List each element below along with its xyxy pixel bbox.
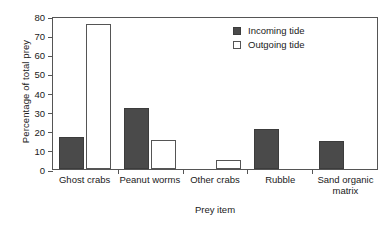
y-tick-label: 0 [25,165,45,176]
bar [216,160,241,169]
x-tick-label: Other crabs [182,174,247,196]
bar [59,137,84,169]
bar [124,108,149,169]
y-tick-label: 70 [25,31,45,42]
bar-group [312,18,377,169]
y-tick-label: 80 [25,12,45,23]
bar [254,129,279,169]
chart-figure: Percentage of total prey 010203040506070… [0,0,391,233]
bar [86,24,111,169]
legend-label: Outgoing tide [248,40,305,50]
x-tick-label: Peanut worms [117,174,182,196]
x-axis-tick-labels: Ghost crabsPeanut wormsOther crabsRubble… [52,174,378,196]
x-axis-title: Prey item [52,204,378,215]
legend-swatch-outgoing [233,41,241,49]
legend-item: Outgoing tide [233,40,305,50]
y-tick-mark [48,171,53,172]
x-tick-label: Sand organic matrix [313,174,378,196]
y-tick-label: 10 [25,146,45,157]
bar-group [118,18,183,169]
x-tick-label: Rubble [248,174,313,196]
bar [319,141,344,169]
y-tick-label: 30 [25,108,45,119]
bar [151,140,176,169]
legend-swatch-incoming [233,27,241,35]
plot-area: 01020304050607080 [52,17,378,170]
y-tick-label: 20 [25,127,45,138]
legend-item: Incoming tide [233,26,305,36]
chart-legend: Incoming tideOutgoing tide [233,26,305,50]
y-tick-label: 60 [25,50,45,61]
legend-label: Incoming tide [248,26,305,36]
bar-group [53,18,118,169]
y-tick-label: 40 [25,89,45,100]
bar-groups [53,18,377,169]
x-tick-label: Ghost crabs [52,174,117,196]
y-tick-label: 50 [25,69,45,80]
